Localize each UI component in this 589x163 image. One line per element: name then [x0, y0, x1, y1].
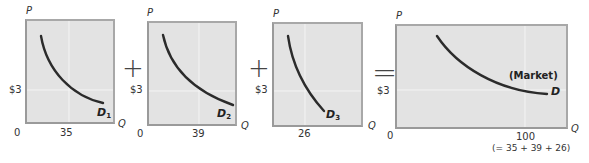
p-axis-label: P: [273, 8, 279, 19]
market-label: (Market): [509, 70, 558, 81]
curve-label-d1: D1: [97, 106, 111, 120]
curve-label-d3: D3: [326, 108, 340, 122]
quantity-tick: 100: [516, 131, 535, 142]
plot-area: D3: [272, 22, 363, 127]
quantity-tick: 35: [60, 127, 73, 138]
price-tick: $3: [377, 85, 390, 96]
plot-area: D1: [25, 19, 115, 124]
quantity-sum-note: (= 35 + 39 + 26): [492, 143, 570, 153]
price-tick: $3: [9, 84, 22, 95]
quantity-tick: 39: [192, 128, 205, 139]
plot-area: (Market) D: [395, 24, 568, 129]
price-tick: $3: [130, 84, 143, 95]
q-axis-label: Q: [118, 118, 126, 129]
q-axis-label: Q: [368, 120, 376, 131]
plus-operator-1: +: [122, 55, 144, 81]
curve-label-d2: D2: [217, 107, 231, 121]
plot-area: D2: [147, 21, 237, 126]
quantity-tick: 26: [298, 128, 311, 139]
origin-tick: 0: [137, 128, 143, 139]
p-axis-label: P: [26, 5, 32, 16]
origin-tick: 0: [14, 127, 20, 138]
origin-tick: 0: [387, 130, 393, 141]
q-axis-label: Q: [571, 123, 579, 134]
curve-label-d: D: [551, 85, 560, 98]
p-axis-label: P: [396, 10, 402, 21]
plus-operator-2: +: [248, 55, 270, 81]
demand-curve-d3: [274, 24, 361, 125]
p-axis-label: P: [147, 7, 153, 18]
equals-operator: =: [372, 58, 397, 88]
q-axis-label: Q: [241, 120, 249, 131]
price-tick: $3: [255, 84, 268, 95]
